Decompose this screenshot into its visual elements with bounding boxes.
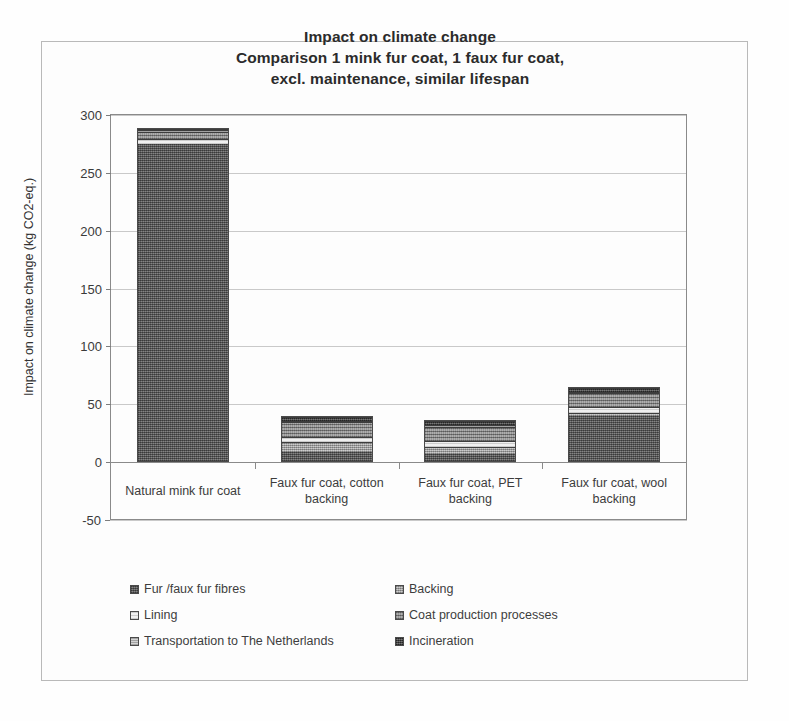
legend-item-backing: Backing — [395, 582, 670, 596]
bar-3-segment-3 — [569, 393, 659, 407]
bar-2 — [424, 420, 516, 462]
tick-mark-neg50 — [105, 520, 110, 521]
plot-area: 300250200150100500 — [110, 114, 687, 462]
legend-item-lining: Lining — [130, 608, 395, 622]
y-tick-label-100: 100 — [80, 339, 102, 354]
legend-label-lining: Lining — [144, 608, 177, 622]
chart-title: Impact on climate change Comparison 1 mi… — [120, 26, 680, 89]
y-tick-label-200: 200 — [80, 223, 102, 238]
x-tick-label-2: Faux fur coat, PET backing — [399, 462, 543, 519]
tick-mark-50 — [106, 404, 111, 405]
tick-mark-150 — [106, 289, 111, 290]
tick-mark-200 — [106, 231, 111, 232]
x-tick-label-3: Faux fur coat, wool backing — [542, 462, 686, 519]
legend-item-transportation: Transportation to The Netherlands — [130, 634, 395, 648]
chart-title-line-3: excl. maintenance, similar lifespan — [120, 68, 680, 89]
bar-2-segment-3 — [425, 427, 515, 441]
bar-3 — [568, 387, 660, 462]
bar-1 — [281, 416, 373, 462]
bar-2-segment-0 — [425, 454, 515, 461]
legend-swatch-icon-coat-production — [395, 611, 404, 620]
gridline-neg50 — [110, 520, 687, 521]
tick-mark-300 — [106, 115, 111, 116]
legend-label-incineration: Incineration — [409, 634, 474, 648]
gridline-300 — [111, 115, 686, 116]
legend-swatch-icon-fibres — [130, 585, 139, 594]
y-tick-label-300: 300 — [80, 108, 102, 123]
y-axis-title: Impact on climate change (kg CO2-eq.) — [22, 122, 36, 452]
x-tick-label-1: Faux fur coat, cotton backing — [255, 462, 399, 519]
bar-2-segment-1 — [425, 447, 515, 455]
bar-1-segment-0 — [282, 452, 372, 461]
legend-swatch-icon-lining — [130, 611, 139, 620]
legend-label-backing: Backing — [409, 582, 453, 596]
legend-label-coat-production: Coat production processes — [409, 608, 558, 622]
bar-0 — [137, 128, 229, 462]
legend-swatch-icon-backing — [395, 585, 404, 594]
x-tick-label-0: Natural mink fur coat — [111, 462, 255, 519]
legend-swatch-icon-incineration — [395, 637, 404, 646]
y-tick-label-250: 250 — [80, 165, 102, 180]
bar-1-segment-1 — [282, 442, 372, 452]
y-tick-label-0: 0 — [95, 455, 102, 470]
y-tick-label-150: 150 — [80, 281, 102, 296]
tick-mark-100 — [106, 346, 111, 347]
legend-label-transportation: Transportation to The Netherlands — [144, 634, 334, 648]
legend-swatch-icon-transportation — [130, 637, 139, 646]
legend-item-incineration: Incineration — [395, 634, 670, 648]
chart-legend: Fur /faux fur fibres Backing Lining Coat… — [130, 576, 670, 654]
y-tick-label-neg50: -50 — [82, 513, 101, 528]
bar-0-segment-0 — [138, 144, 228, 461]
tick-mark-250 — [106, 173, 111, 174]
bar-1-segment-3 — [282, 422, 372, 436]
legend-item-fur-faux-fur-fibres: Fur /faux fur fibres — [130, 582, 395, 596]
legend-item-coat-production-processes: Coat production processes — [395, 608, 670, 622]
category-label-band: Natural mink fur coat Faux fur coat, cot… — [110, 462, 687, 520]
figure-page: Impact on climate change Comparison 1 mi… — [0, 0, 789, 721]
chart-title-line-2: Comparison 1 mink fur coat, 1 faux fur c… — [120, 47, 680, 68]
chart-title-line-1: Impact on climate change — [120, 26, 680, 47]
bar-3-segment-0 — [569, 416, 659, 461]
bar-0-segment-3 — [138, 132, 228, 139]
y-tick-label-50: 50 — [88, 397, 102, 412]
legend-label-fibres: Fur /faux fur fibres — [144, 582, 245, 596]
